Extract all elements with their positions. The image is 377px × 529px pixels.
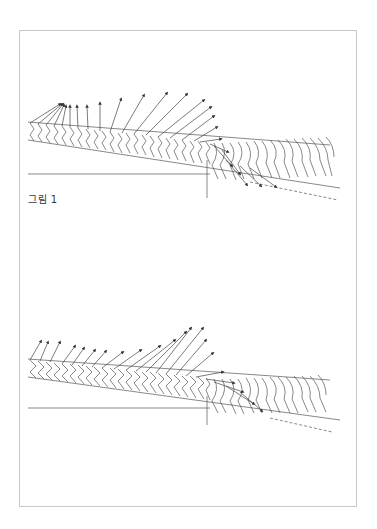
figure-2: 그림 2 (0, 250, 377, 480)
figure-1: 그림 1 (0, 0, 377, 230)
figure-2-diagram (0, 250, 377, 480)
figure-1-caption: 그림 1 (28, 191, 58, 206)
